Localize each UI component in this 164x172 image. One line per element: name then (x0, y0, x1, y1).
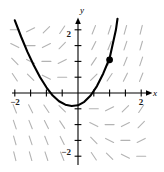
slope-mark (14, 152, 16, 161)
slope-mark (44, 121, 48, 129)
slope-mark (121, 123, 129, 127)
slope-mark (29, 120, 32, 128)
axes-group (12, 18, 153, 166)
slope-mark (14, 136, 16, 145)
slope-mark (60, 26, 65, 33)
x-tick-label-pos2: 2 (139, 97, 144, 107)
slope-mark (60, 136, 64, 144)
slope-mark (27, 28, 35, 32)
y-axis-arrow-icon (75, 18, 81, 25)
slope-mark (108, 26, 111, 35)
slope-mark (91, 152, 96, 159)
slope-mark (44, 105, 49, 112)
slope-mark (58, 59, 66, 63)
slope-mark (124, 25, 126, 34)
slope-mark (138, 121, 144, 127)
slope-mark (45, 136, 48, 144)
slope-mark (121, 154, 129, 158)
slope-mark (91, 137, 97, 143)
slope-mark (42, 44, 50, 48)
slope-mark (60, 121, 65, 128)
slope-mark (140, 73, 143, 81)
slope-mark (12, 73, 17, 80)
slope-mark (59, 106, 65, 112)
slope-mark (137, 138, 145, 142)
y-tick-label-pos2: 2 (67, 29, 72, 39)
slope-mark (92, 42, 96, 50)
slope-mark (42, 75, 50, 79)
slope-mark (140, 57, 143, 66)
x-axis-label: x (152, 88, 157, 98)
slope-mark (107, 73, 112, 80)
slope-mark (124, 41, 127, 50)
plot-canvas: x y −2 2 2 −2 (0, 0, 164, 172)
slope-mark (106, 107, 114, 111)
slope-mark (123, 73, 127, 81)
x-axis-arrow-icon (146, 90, 153, 96)
slope-mark (91, 58, 96, 65)
slope-mark (27, 74, 33, 80)
x-tick-label-neg2: −2 (10, 97, 20, 107)
slope-mark (140, 25, 142, 34)
slope-mark (29, 136, 32, 145)
slope-field-figure: x y −2 2 2 −2 (0, 0, 164, 172)
slope-mark (124, 57, 127, 65)
marked-points-group (106, 56, 113, 63)
slope-mark (59, 42, 65, 48)
slope-mark (29, 105, 33, 113)
slope-mark (106, 153, 112, 159)
y-axis-label: y (79, 5, 84, 15)
slope-mark (13, 120, 16, 129)
slope-mark (45, 152, 48, 161)
slope-mark (12, 58, 18, 64)
slope-mark (43, 27, 49, 33)
slope-mark (122, 106, 128, 112)
slope-mark (106, 138, 114, 142)
slope-mark (140, 41, 142, 50)
y-tick-label-neg2: −2 (61, 147, 71, 157)
slope-mark (90, 123, 98, 127)
initial-condition-point (106, 56, 113, 63)
slope-mark (91, 74, 97, 80)
slope-mark (29, 152, 31, 161)
slope-mark (11, 44, 19, 48)
slope-mark (92, 26, 95, 34)
